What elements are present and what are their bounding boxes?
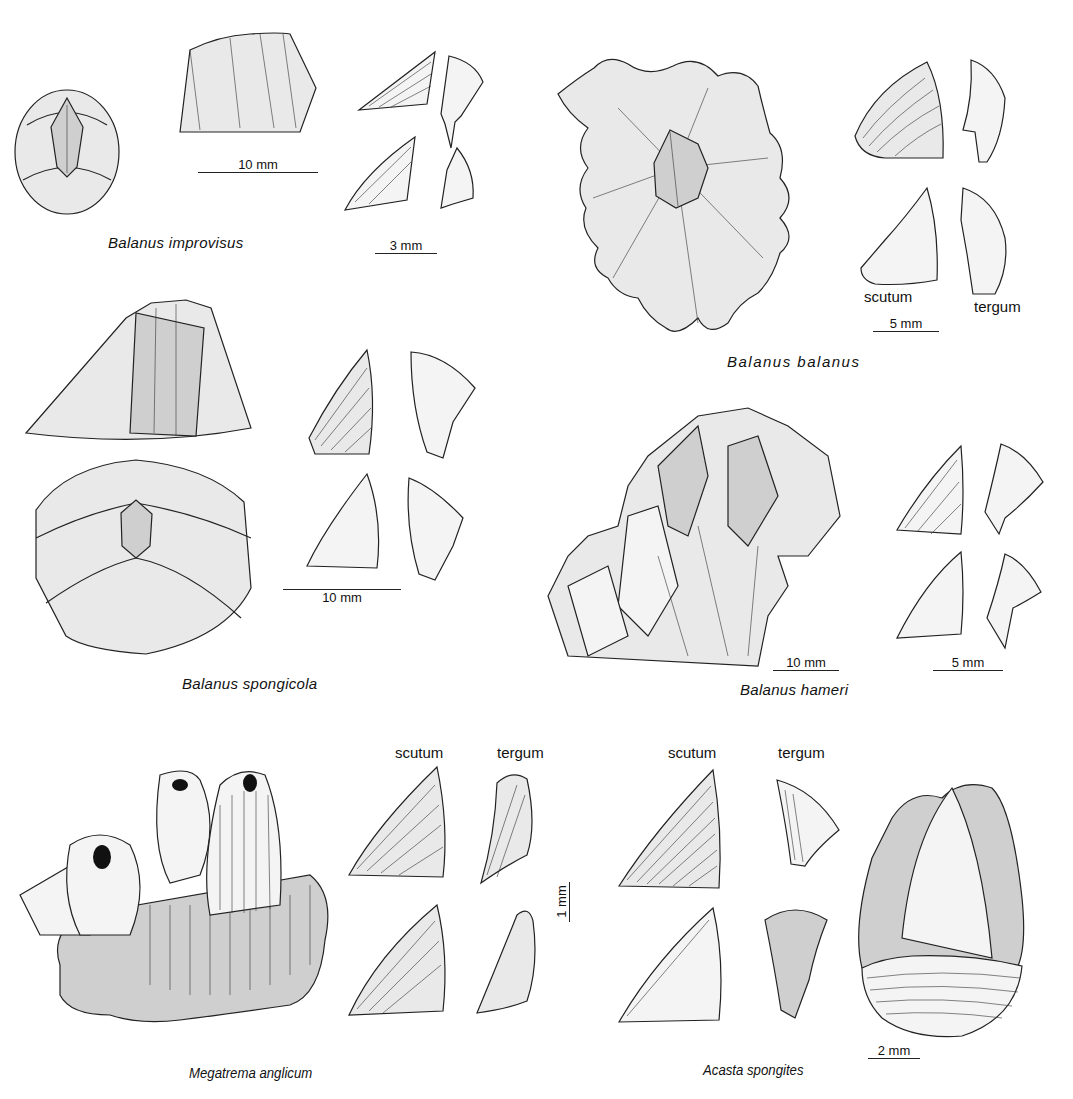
species-label-balanus-balanus: Balanus balanus [727,353,860,370]
scale-bar-10mm-improvisus: 10 mm [198,157,318,173]
scale-bar-label: 10 mm [283,590,401,605]
balanus-balanus-valves-drawing [855,58,1050,298]
scale-bar-line [773,670,839,671]
scale-bar-label: 1 mm [554,885,569,918]
balanus-improvisus-valves-drawing [345,52,485,217]
species-label-acasta-spongites: Acasta spongites [703,1061,804,1078]
scale-bar-line [933,670,1003,671]
megatrema-anglicum-colony-drawing [20,765,335,1030]
scale-bar-3mm-improvisus: 3 mm [375,238,437,254]
scale-bar-line [198,172,318,173]
valve-label-tergum-acasta: tergum [778,744,825,761]
megatrema-anglicum-valves-drawing [347,765,547,1015]
balanus-improvisus-lateral-drawing [178,28,318,138]
species-label-balanus-spongicola: Balanus spongicola [182,675,318,692]
scale-bar-5mm-balanus: 5 mm [873,316,939,332]
valve-label-scutum-balanus: scutum [864,288,912,305]
species-label-balanus-improvisus: Balanus improvisus [108,234,243,251]
scale-bar-label: 3 mm [375,238,437,253]
scale-bar-10mm-hameri: 10 mm [773,655,839,671]
scale-bar-2mm-acasta: 2 mm [868,1043,920,1059]
scale-bar-label: 2 mm [868,1043,920,1058]
species-label-megatrema-anglicum: Megatrema anglicum [189,1064,312,1081]
valve-label-scutum-megatrema: scutum [395,744,443,761]
species-label-balanus-hameri: Balanus hameri [740,681,848,698]
scale-bar-line [569,882,570,922]
scale-bar-1mm-megatrema: 1 mm [555,880,575,926]
balanus-spongicola-apical-drawing [26,458,256,658]
scale-bar-label: 10 mm [198,157,318,172]
scale-bar-5mm-hameri: 5 mm [933,655,1003,671]
balanus-hameri-cluster-drawing [548,406,843,671]
acasta-spongites-lateral-drawing [852,778,1032,1043]
acasta-spongites-valves-drawing [615,770,845,1025]
valve-label-tergum-megatrema: tergum [497,744,544,761]
valve-label-tergum-balanus: tergum [974,298,1021,315]
balanus-spongicola-lateral-drawing [26,298,256,448]
balanus-improvisus-apical-drawing [15,85,155,220]
valve-label-scutum-acasta: scutum [668,744,716,761]
balanus-spongicola-valves-drawing [305,348,480,588]
scale-bar-line [375,253,437,254]
scale-bar-line [868,1058,920,1059]
scale-bar-label: 10 mm [773,655,839,670]
scale-bar-10mm-spongicola: 10 mm [283,589,401,605]
balanus-balanus-apical-drawing [558,48,808,343]
scale-bar-label: 5 mm [933,655,1003,670]
scale-bar-line [873,331,939,332]
scale-bar-label: 5 mm [873,316,939,331]
balanus-hameri-valves-drawing [895,442,1045,647]
